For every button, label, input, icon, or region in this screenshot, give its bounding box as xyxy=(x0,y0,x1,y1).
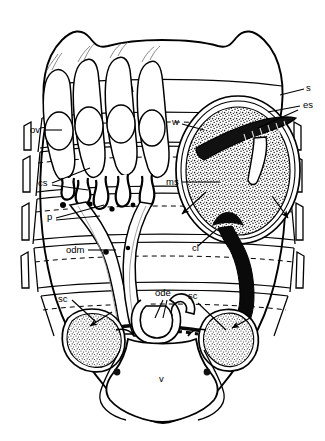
label-cs: cs xyxy=(38,177,48,188)
label-v: v xyxy=(159,373,164,384)
label-odm: odm xyxy=(66,244,85,255)
label-sc-left: sc xyxy=(58,293,68,304)
label-es: es xyxy=(303,99,313,110)
label-s: s xyxy=(306,82,311,93)
anatomical-diagram: ov cs p w ms s es cl odm ode sc sc v xyxy=(0,0,325,441)
label-ms: ms xyxy=(166,176,179,187)
label-sc-right: sc xyxy=(188,290,198,301)
label-ov: ov xyxy=(30,124,40,135)
label-cl: cl xyxy=(192,242,199,253)
label-p: p xyxy=(47,211,52,222)
label-w: w xyxy=(171,116,179,127)
leader-s xyxy=(280,89,304,95)
label-ode: ode xyxy=(155,287,171,298)
